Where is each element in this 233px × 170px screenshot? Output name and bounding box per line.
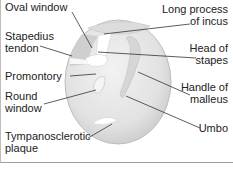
label-tympanosclerotic-plaque: Tympanosclerotic plaque bbox=[5, 130, 91, 154]
label-head-of-stapes: Head of stapes bbox=[189, 42, 228, 66]
label-oval-window: Oval window bbox=[5, 1, 67, 13]
label-umbo: Umbo bbox=[199, 122, 228, 134]
label-stapedius-tendon: Stapedius tendon bbox=[5, 30, 54, 54]
label-handle-of-malleus: Handle of malleus bbox=[181, 81, 228, 105]
label-promontory: Promontory bbox=[5, 70, 62, 82]
label-long-process-of-incus: Long process of incus bbox=[162, 3, 228, 27]
stapes-shape bbox=[86, 54, 107, 66]
label-round-window: Round window bbox=[5, 90, 42, 114]
